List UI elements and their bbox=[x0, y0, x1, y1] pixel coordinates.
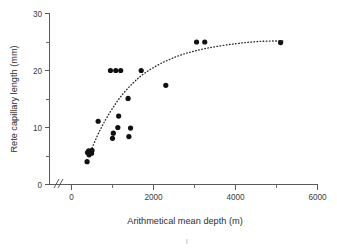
axes-group bbox=[50, 13, 319, 185]
axis-break-marks bbox=[54, 179, 63, 188]
data-point bbox=[96, 119, 101, 124]
data-point bbox=[84, 159, 89, 164]
data-point bbox=[202, 39, 207, 44]
x-tick-label-6000: 6000 bbox=[308, 193, 327, 202]
data-point bbox=[126, 134, 131, 139]
data-point bbox=[110, 136, 115, 141]
x-tick-label-4000: 4000 bbox=[226, 193, 245, 202]
data-point bbox=[139, 68, 144, 73]
scan-artifacts bbox=[186, 239, 188, 244]
y-tick-label-0: 0 bbox=[37, 181, 42, 190]
data-point bbox=[163, 83, 168, 88]
data-point bbox=[116, 114, 121, 119]
x-axis-ticks bbox=[72, 185, 318, 190]
y-axis-title: Rete capillary length (mm) bbox=[9, 45, 19, 152]
chart-canvas: 0 10 20 30 0 2000 4000 6000 Arithmetical… bbox=[0, 0, 337, 249]
data-point bbox=[118, 68, 123, 73]
y-tick-label-30: 30 bbox=[33, 10, 43, 19]
data-point bbox=[108, 68, 113, 73]
y-tick-label-20: 20 bbox=[33, 67, 43, 76]
x-axis-title: Arithmetical mean depth (m) bbox=[127, 216, 242, 226]
data-point bbox=[115, 125, 120, 130]
data-point bbox=[278, 40, 283, 45]
x-tick-label-2000: 2000 bbox=[144, 193, 163, 202]
trend-curve bbox=[91, 41, 285, 151]
x-tick-label-0: 0 bbox=[69, 193, 74, 202]
x-axis-tick-labels: 0 2000 4000 6000 bbox=[69, 193, 327, 202]
y-axis-tick-labels: 0 10 20 30 bbox=[33, 10, 43, 190]
data-point bbox=[128, 125, 133, 130]
scatter-plot-figure: 0 10 20 30 0 2000 4000 6000 Arithmetical… bbox=[0, 0, 337, 249]
y-tick-label-10: 10 bbox=[33, 124, 43, 133]
data-point bbox=[111, 131, 116, 136]
data-point bbox=[125, 96, 130, 101]
data-point bbox=[194, 39, 199, 44]
data-points-group bbox=[84, 39, 283, 164]
y-axis-ticks bbox=[45, 14, 50, 185]
data-point bbox=[89, 148, 94, 153]
data-point bbox=[113, 68, 118, 73]
